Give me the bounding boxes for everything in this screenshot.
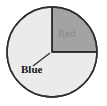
pie-chart-figure: Red Blue — [0, 0, 107, 106]
pie-chart-svg — [0, 0, 107, 106]
